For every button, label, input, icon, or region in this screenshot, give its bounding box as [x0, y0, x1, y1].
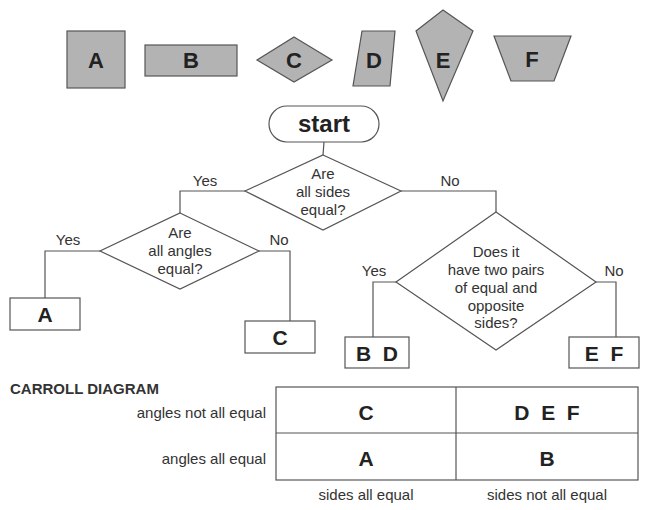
shape-e-label: E [436, 48, 451, 73]
decision-all-sides-equal: Are all sides equal? [245, 155, 401, 230]
q3-line-1: Does it [473, 243, 521, 260]
q3-no-label: No [604, 262, 623, 279]
q1-no-connector [401, 191, 496, 212]
connector-line [323, 142, 324, 155]
shape-f: F [494, 36, 571, 81]
outcome-box-ef: E F [569, 337, 639, 368]
carroll-title: CARROLL DIAGRAM [10, 380, 159, 397]
shape-d-label: D [366, 48, 382, 73]
q2-line-2: all angles [148, 242, 211, 259]
q2-line-1: Are [168, 224, 191, 241]
q3-line-2: have two pairs [448, 261, 545, 278]
shape-c-label: C [286, 48, 302, 73]
q1-line-1: Are [311, 165, 334, 182]
outcome-ef-label: E F [585, 342, 624, 365]
shape-f-label: F [525, 47, 538, 72]
carroll-cell-r2c2: B [539, 447, 554, 470]
q3-yes-connector [373, 282, 396, 337]
q3-line-3: of equal and [455, 279, 538, 296]
q2-line-3: equal? [157, 260, 202, 277]
shape-a-label: A [88, 48, 104, 73]
carroll-cell-r1c2: D E F [514, 401, 580, 424]
q3-line-5: sides? [474, 314, 517, 331]
q1-line-3: equal? [300, 201, 345, 218]
shape-b: B [145, 45, 237, 76]
outcome-c-label: C [272, 326, 287, 349]
carroll-col-label-2: sides not all equal [487, 486, 607, 503]
shape-b-label: B [183, 48, 199, 73]
shape-e: E [416, 10, 473, 101]
carroll-table: C D E F A B [276, 387, 638, 480]
outcome-bd-label: B D [356, 342, 398, 365]
shape-a: A [67, 31, 125, 88]
carroll-cell-r2c1: A [358, 447, 373, 470]
outcome-box-a: A [10, 298, 80, 330]
carroll-row-label-2: angles all equal [162, 450, 266, 467]
start-node: start [269, 106, 379, 142]
shape-c: C [257, 37, 332, 82]
outcome-box-bd: B D [345, 337, 409, 368]
shapes-flowchart-diagram: A B C D E F start Are all sides equal? Y… [0, 0, 649, 510]
q1-no-label: No [440, 172, 459, 189]
outcome-a-label: A [37, 303, 52, 326]
q1-yes-connector [180, 191, 245, 213]
start-label: start [298, 110, 350, 137]
decision-two-pairs-equal-opposite-sides: Does it have two pairs of equal and oppo… [396, 212, 596, 350]
decision-all-angles-equal: Are all angles equal? [100, 213, 259, 289]
q2-yes-connector [45, 251, 100, 298]
carroll-cell-r1c1: C [358, 401, 373, 424]
q2-no-label: No [269, 231, 288, 248]
q1-yes-label: Yes [193, 172, 217, 189]
q2-no-connector [259, 251, 290, 321]
q2-yes-label: Yes [56, 231, 80, 248]
q3-no-connector [596, 282, 616, 337]
outcome-box-c: C [245, 321, 315, 353]
carroll-col-label-1: sides all equal [318, 486, 413, 503]
q3-line-4: opposite [468, 297, 525, 314]
shape-d: D [353, 31, 395, 86]
carroll-row-label-1: angles not all equal [137, 404, 266, 421]
q3-yes-label: Yes [362, 262, 386, 279]
q1-line-2: all sides [296, 183, 350, 200]
